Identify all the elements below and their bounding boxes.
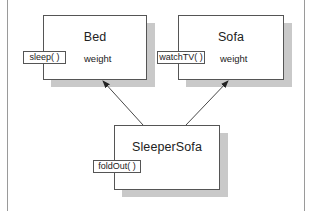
arrow-sleepersofa-to-bed (103, 81, 143, 125)
inheritance-arrows (0, 0, 310, 211)
arrow-sleepersofa-to-sofa (186, 81, 228, 125)
